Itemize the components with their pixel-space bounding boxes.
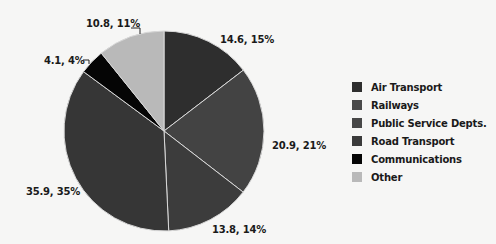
slice-label-railways: 20.9, 21% [272, 140, 326, 151]
legend-swatch-icon [352, 136, 362, 146]
legend-label: Communications [371, 154, 462, 165]
slice-label-air-transport: 14.6, 15% [220, 34, 274, 45]
legend-label: Other [371, 172, 402, 183]
legend-item-communications: Communications [352, 150, 487, 168]
legend-item-public-service: Public Service Depts. [352, 114, 487, 132]
legend-label: Air Transport [371, 82, 442, 93]
legend-swatch-icon [352, 82, 362, 92]
legend-item-air-transport: Air Transport [352, 78, 487, 96]
legend-label: Public Service Depts. [371, 118, 487, 129]
slice-label-public-service: 13.8, 14% [212, 224, 266, 235]
legend-item-road-transport: Road Transport [352, 132, 487, 150]
chart-legend: Air Transport Railways Public Service De… [352, 78, 487, 186]
legend-item-other: Other [352, 168, 487, 186]
legend-swatch-icon [352, 118, 362, 128]
legend-item-railways: Railways [352, 96, 487, 114]
legend-swatch-icon [352, 100, 362, 110]
slice-label-road-transport: 35.9, 35% [26, 186, 80, 197]
legend-label: Road Transport [371, 136, 454, 147]
legend-swatch-icon [352, 154, 362, 164]
legend-label: Railways [371, 100, 419, 111]
slice-label-communications: 4.1, 4% [44, 55, 85, 66]
legend-swatch-icon [352, 172, 362, 182]
slice-label-other: 10.8, 11% [86, 18, 140, 29]
